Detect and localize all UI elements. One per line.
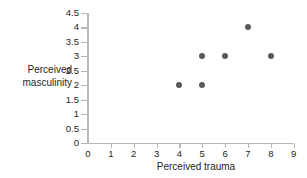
data-point (199, 82, 205, 88)
x-tick-label: 2 (131, 149, 136, 159)
x-tick-label: 3 (154, 149, 159, 159)
y-axis-title-line-1: Perceived (28, 64, 72, 75)
y-tick-mark (81, 27, 87, 28)
x-tick-label: 8 (268, 149, 273, 159)
y-axis-line (87, 13, 89, 144)
y-tick-label: 0.5 (66, 124, 79, 134)
x-tick-label: 7 (245, 149, 250, 159)
scatter-plot: 00.511.522.533.544.5 0123456789 Perceive… (0, 0, 307, 178)
x-tick-label: 5 (200, 149, 205, 159)
x-axis-line (87, 143, 293, 145)
data-point (245, 24, 251, 30)
y-tick-mark (81, 13, 87, 14)
y-tick-label: 3.5 (66, 37, 79, 47)
y-tick-label: 1.5 (66, 95, 79, 105)
x-tick-label: 4 (177, 149, 182, 159)
x-axis-title: Perceived trauma (0, 161, 307, 174)
y-tick-mark (81, 42, 87, 43)
y-tick-mark (81, 143, 87, 144)
data-point (199, 53, 205, 59)
x-tick-label: 0 (85, 149, 90, 159)
y-tick-label: 2 (74, 80, 79, 90)
y-tick-label: 3 (74, 52, 79, 62)
data-point (268, 53, 274, 59)
data-point (176, 82, 182, 88)
y-tick-mark (81, 114, 87, 115)
y-tick-mark (81, 56, 87, 57)
y-tick-mark (81, 129, 87, 130)
data-point (222, 53, 228, 59)
x-tick-label: 1 (108, 149, 113, 159)
x-tick-label: 9 (291, 149, 296, 159)
x-tick-label: 6 (222, 149, 227, 159)
y-tick-mark (81, 71, 87, 72)
y-tick-mark (81, 85, 87, 86)
y-axis-title-line-2: masculinity (0, 77, 72, 90)
y-axis-title: Perceived masculinity (0, 64, 72, 89)
y-tick-label: 4.5 (66, 8, 79, 18)
y-tick-mark (81, 100, 87, 101)
y-tick-label: 4 (74, 23, 79, 33)
y-tick-label: 1 (74, 109, 79, 119)
y-tick-label: 0 (74, 138, 79, 148)
